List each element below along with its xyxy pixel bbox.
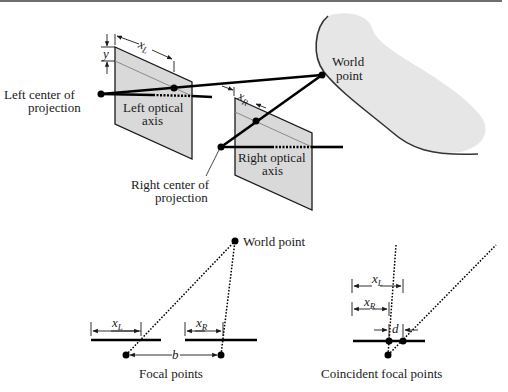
right-focal-point bbox=[218, 352, 225, 359]
right-image-point bbox=[253, 118, 260, 125]
left-ray bbox=[126, 241, 235, 355]
world-point-label: World bbox=[332, 54, 365, 69]
baseline-label: b bbox=[172, 347, 179, 362]
focal-xL-label: xL bbox=[111, 315, 123, 332]
left-center-label-2: projection bbox=[28, 100, 81, 115]
world-point-label-2: point bbox=[336, 68, 363, 83]
left-axis-label-2: axis bbox=[142, 113, 163, 128]
world-object bbox=[316, 13, 485, 154]
disparity-label: d bbox=[392, 321, 399, 336]
left-optical-axis-ext bbox=[192, 96, 212, 97]
right-axis-label-2: axis bbox=[262, 163, 283, 178]
left-focal-point bbox=[123, 352, 130, 359]
focal-points-caption: Focal points bbox=[139, 366, 203, 381]
left-image-point bbox=[171, 85, 178, 92]
xL-label: xL bbox=[135, 36, 152, 56]
world-point bbox=[319, 72, 326, 79]
stereo-vision-diagram: World point y xL xR Left cent bbox=[0, 0, 508, 392]
left-center-point bbox=[98, 91, 105, 98]
right-center-label-2: projection bbox=[155, 190, 208, 205]
image-point-left bbox=[386, 338, 393, 345]
coincident-caption: Coincident focal points bbox=[321, 366, 442, 381]
right-center-leader bbox=[206, 150, 219, 176]
coincident-xR-label: xR bbox=[363, 294, 376, 311]
y-label: y bbox=[101, 46, 109, 61]
focal-world-point-label: World point bbox=[243, 234, 306, 249]
right-ray bbox=[221, 241, 235, 355]
coincident-focal-point bbox=[385, 352, 392, 359]
focal-points-diagram bbox=[91, 238, 257, 359]
coincident-xL-label: xL bbox=[371, 271, 383, 288]
focal-xR-label: xR bbox=[195, 315, 208, 332]
world-point-dot bbox=[232, 238, 239, 245]
right-center-point bbox=[218, 144, 225, 151]
image-point-right bbox=[400, 338, 407, 345]
